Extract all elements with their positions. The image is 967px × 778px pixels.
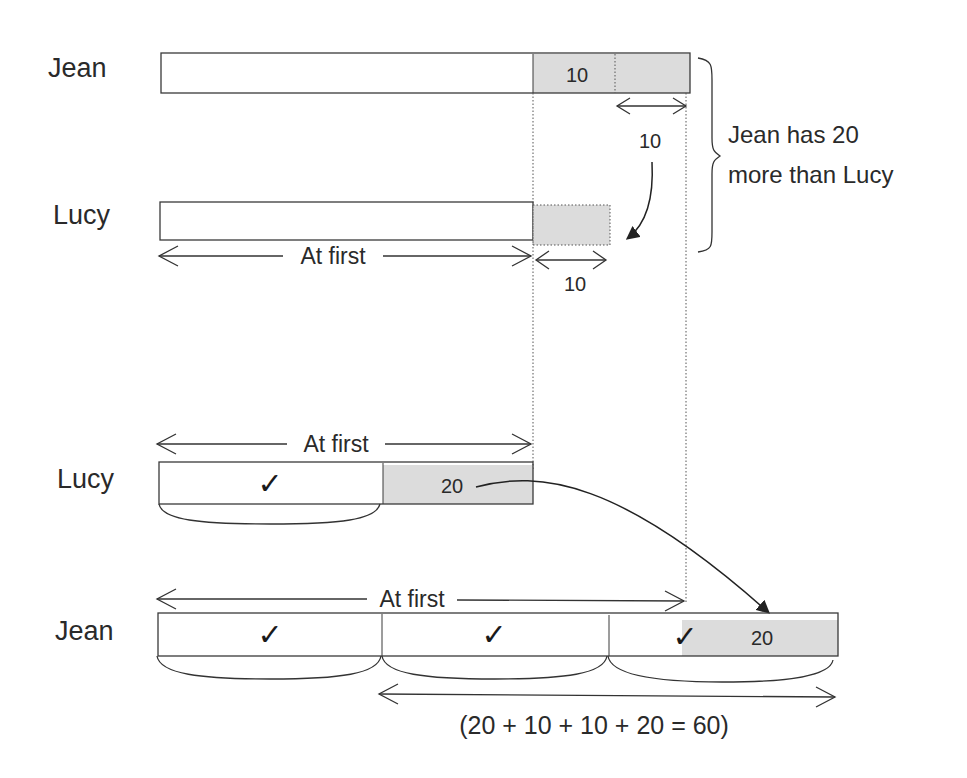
lucy-unit-brace bbox=[159, 504, 380, 524]
jean-unit-brace-3 bbox=[608, 656, 833, 682]
lucy-label-bottom: Lucy bbox=[57, 464, 115, 494]
transfer-curved-arrow bbox=[628, 162, 652, 238]
total-equation: (20 + 10 + 10 + 20 = 60) bbox=[459, 711, 729, 739]
total-dimension-arrow bbox=[379, 684, 835, 707]
jean-label-bottom: Jean bbox=[55, 616, 114, 646]
at-first-label-top: At first bbox=[300, 243, 366, 269]
transfer-amount-label: 10 bbox=[639, 130, 661, 152]
jean-unit-check-icon-3: ✓ bbox=[672, 619, 697, 654]
jean-shaded-part-label: 10 bbox=[566, 64, 588, 86]
jean-label-top: Jean bbox=[48, 53, 107, 83]
jean-bar-top bbox=[161, 53, 690, 93]
lucy-label-top: Lucy bbox=[53, 200, 111, 230]
jean-unit-check-icon-1: ✓ bbox=[257, 617, 282, 652]
at-first-label-lucy-bottom: At first bbox=[303, 431, 369, 457]
lucy-unit-check-icon: ✓ bbox=[257, 466, 282, 501]
difference-note-line2: more than Lucy bbox=[728, 161, 893, 188]
jean-transfer-dimension-arrow bbox=[617, 98, 686, 114]
lucy-bar-top bbox=[160, 202, 610, 245]
difference-note-line1: Jean has 20 bbox=[728, 121, 859, 148]
jean-unit-brace-1 bbox=[157, 656, 381, 679]
jean-extra-label: 20 bbox=[751, 627, 773, 649]
bar-model-diagram: Jean 10 10 Jean has 20 more than Lucy Lu… bbox=[0, 0, 967, 778]
difference-brace bbox=[698, 58, 720, 252]
jean-unit-check-icon-2: ✓ bbox=[481, 617, 506, 652]
at-first-label-jean-bottom: At first bbox=[379, 586, 445, 612]
lucy-bar-bottom bbox=[159, 462, 533, 504]
lucy-added-part-label: 10 bbox=[564, 273, 586, 295]
lucy-added-dimension-arrow bbox=[536, 251, 606, 269]
lucy-extra-label: 20 bbox=[441, 475, 463, 497]
jean-unit-brace-2 bbox=[382, 656, 607, 679]
